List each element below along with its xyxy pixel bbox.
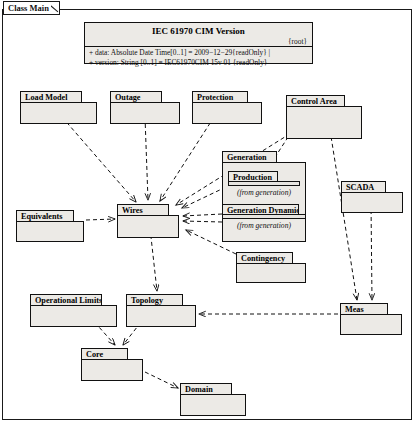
package-body	[81, 359, 143, 381]
package-body	[222, 214, 306, 219]
package-body	[117, 215, 179, 238]
package-body	[126, 305, 196, 327]
package-operational-limits[interactable]: Operational Limits	[30, 294, 117, 328]
package-body	[30, 305, 117, 327]
cim-version-attribute: + version: String [0..1] = IEC61970CIM 1…	[89, 58, 309, 68]
package-meas[interactable]: Meas	[340, 303, 402, 336]
diagram-frame-tab: Class Main	[3, 1, 60, 15]
package-body	[341, 192, 403, 213]
cim-version-class-box: IEC 61970 CIM Version {root} + data: Abs…	[84, 22, 313, 64]
package-scada[interactable]: SCADA	[341, 181, 403, 214]
package-core[interactable]: Core	[81, 348, 143, 382]
fold-corner-icon	[51, 2, 59, 14]
package-outage[interactable]: Outage	[110, 91, 180, 125]
package-contingency[interactable]: Contingency	[236, 252, 306, 284]
package-generation-dynamics[interactable]: Generation Dynamics(from generation)	[222, 204, 306, 220]
diagram-frame-label: Class Main	[8, 3, 49, 13]
package-body	[228, 181, 300, 186]
package-from-label: (from generation)	[228, 188, 300, 197]
cim-version-title: IEC 61970 CIM Version	[85, 23, 312, 37]
package-body	[180, 394, 246, 416]
package-body	[16, 221, 84, 242]
package-body	[20, 102, 97, 124]
cim-version-attributes: + data: Absolute Date Time[0..1] = 2009−…	[85, 46, 312, 68]
cim-version-attribute: + data: Absolute Date Time[0..1] = 2009−…	[89, 48, 309, 58]
cim-version-stereotype: {root}	[85, 37, 312, 46]
package-topology[interactable]: Topology	[126, 294, 196, 328]
package-control-area[interactable]: Control Area	[286, 95, 362, 140]
package-body	[286, 106, 362, 139]
package-wires[interactable]: Wires	[117, 204, 179, 239]
package-equivalents[interactable]: Equivalents	[16, 210, 84, 243]
package-domain[interactable]: Domain	[180, 383, 246, 417]
package-body	[192, 102, 262, 124]
package-body	[340, 314, 402, 335]
package-from-label: (from generation)	[222, 221, 306, 230]
package-protection[interactable]: Protection	[192, 91, 262, 125]
package-production[interactable]: Production(from generation)	[228, 171, 300, 187]
package-load-model[interactable]: Load Model	[20, 91, 97, 125]
package-body	[110, 102, 180, 124]
package-body	[236, 263, 306, 283]
